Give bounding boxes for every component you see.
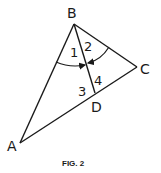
angle-label-3: 3 [78,84,86,99]
angle-label-4: 4 [94,73,102,88]
angle-label-2: 2 [84,39,92,54]
vertex-label-b: B [67,5,77,21]
vertex-label-d: D [91,99,102,115]
vertex-label-c: C [140,61,150,77]
vertex-label-a: A [7,138,17,154]
arc-angle-1 [56,62,85,66]
figure-caption: FIG. 2 [62,159,85,168]
angle-label-1: 1 [70,45,78,60]
triangle-diagram: B C A D 1 2 3 4 FIG. 2 [0,0,161,173]
